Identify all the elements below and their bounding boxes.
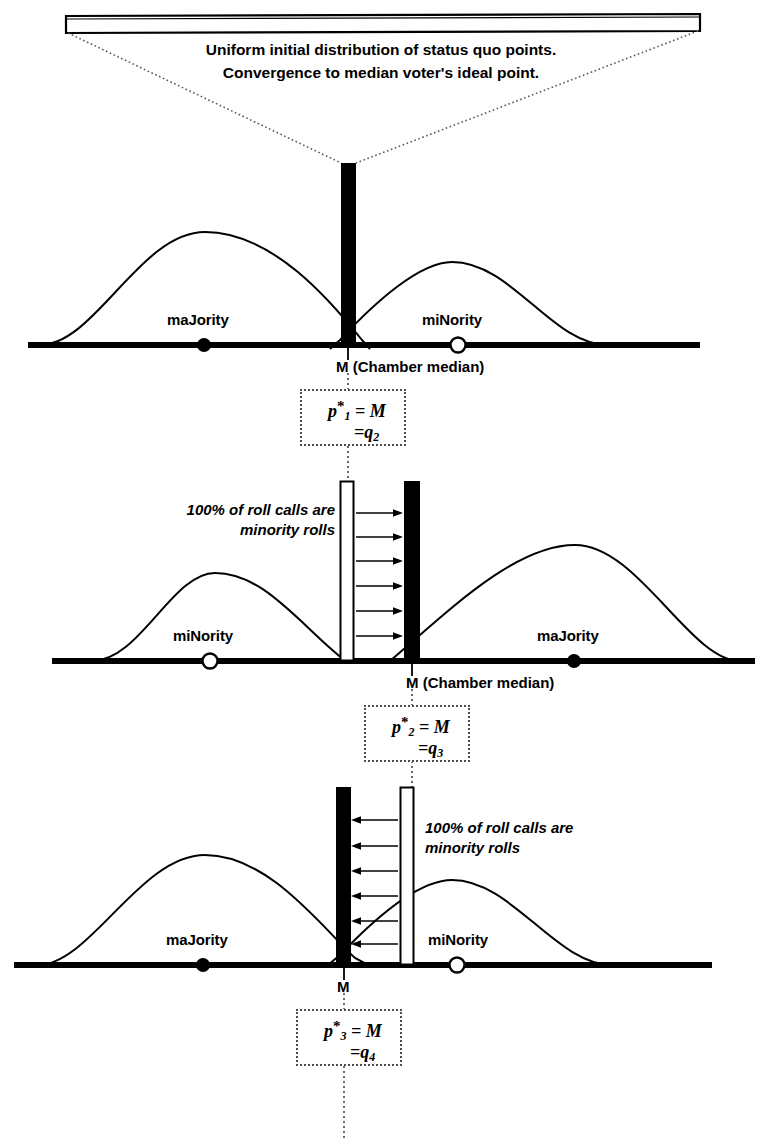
panel-2-median-label: M (Chamber median) (406, 674, 554, 691)
equation-2-line-1: p*2 = M (392, 714, 450, 740)
panel-3-majority-label: maJority (166, 931, 228, 948)
panel-2-minority-label: miNority (173, 627, 233, 644)
panel-3-minority-label: miNority (428, 931, 488, 948)
equation-2-line-2: =q3 (418, 738, 443, 761)
arrow-right (356, 509, 403, 517)
panel-3-rollcall-note: 100% of roll calls are minority rolls (425, 818, 625, 858)
equation-box-1: p*1 = M =q2 (300, 389, 406, 446)
panel-2-shift-arrows (356, 509, 403, 640)
equation-3-line-2: =q4 (350, 1042, 375, 1065)
panel-1-graph (28, 163, 700, 360)
panel-2-rollcall-line-1: 100% of roll calls are (170, 500, 335, 520)
arrow-right (356, 533, 403, 541)
arrow-left (351, 917, 398, 925)
convergence-diagram: Uniform initial distribution of status q… (0, 0, 762, 1145)
equation-1-line-2: =q2 (354, 422, 379, 445)
panel-1-majority-label: maJority (167, 311, 229, 328)
arrow-left (351, 867, 398, 875)
panel-3-graph (14, 787, 712, 980)
arrow-left (351, 816, 398, 824)
panel-2-rollcall-line-2: minority rolls (170, 520, 335, 540)
panel-1-minority-label: miNority (422, 311, 482, 328)
panel-1-median-label: M (Chamber median) (0, 358, 762, 375)
arrow-right (356, 582, 403, 590)
panel-3-rollcall-line-2: minority rolls (425, 838, 625, 858)
arrow-right (356, 607, 403, 615)
equation-1-line-1: p*1 = M (328, 398, 386, 424)
uniform-distribution-slab (66, 14, 700, 33)
arrow-left (351, 842, 398, 850)
panel-3-rollcall-line-1: 100% of roll calls are (425, 818, 625, 838)
equation-3-line-1: p*3 = M (324, 1018, 382, 1044)
panel-2-majority-label: maJority (537, 627, 599, 644)
equation-box-2: p*2 = M =q3 (364, 705, 470, 762)
caption-line-2: Convergence to median voter's ideal poin… (0, 64, 762, 82)
panel-2-graph (52, 481, 755, 676)
arrow-right (356, 632, 403, 640)
arrow-left (351, 892, 398, 900)
panel-3-shift-arrows (351, 816, 398, 948)
panel-2-rollcall-note: 100% of roll calls are minority rolls (170, 500, 335, 540)
caption-line-1: Uniform initial distribution of status q… (0, 41, 762, 59)
equation-box-3: p*3 = M =q4 (296, 1009, 402, 1066)
panel-3-median-label: M (337, 978, 350, 995)
arrow-left (351, 940, 398, 948)
arrow-right (356, 557, 403, 565)
diagram-canvas (0, 0, 762, 1145)
